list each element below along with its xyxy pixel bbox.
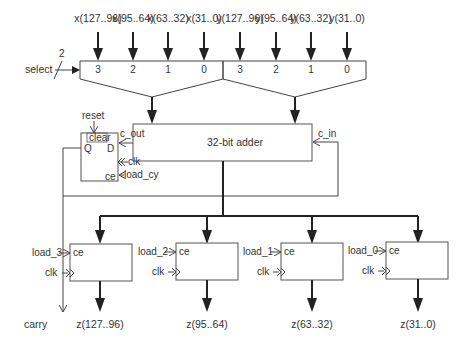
select-label: select [25,63,53,75]
register-load-label: load_2 [138,246,168,257]
arrow-down-icon [307,298,317,312]
d-label: D [107,143,114,154]
carry-output-wire [63,148,81,312]
arrow-down-icon [147,110,157,124]
mux-y-port-1: 1 [308,64,314,75]
input-label-y0: y(31..0) [329,12,365,24]
adder-block: 32-bit adder c_out c_in [120,124,336,161]
register-ce-label: ce [73,247,84,258]
mux-x-port-1: 1 [165,64,171,75]
mux-to-adder-arrows [147,97,300,124]
bus-to-register-arrows [95,216,423,244]
input-label-y1: y(63..32) [290,12,331,24]
mux-x-port-3: 3 [95,64,101,75]
arrow-down-icon [95,230,105,244]
mux-y-port-3: 3 [237,64,243,75]
arrow-down-icon [128,32,138,61]
register-output-label: z(31..0) [400,318,436,330]
arrow-down-icon [93,32,103,61]
mux-x-port-2: 2 [130,64,136,75]
register-clk-label: clk [257,266,270,277]
register-1: ce load_1 clk z(63..32) [243,243,343,330]
input-label-x1: x(63..32) [147,12,188,24]
register-load-label: load_1 [243,246,273,257]
arrow-down-icon [199,32,209,61]
carry-output-label: carry [24,318,48,330]
arrow-down-icon [271,32,281,61]
register-clk-label: clk [152,266,165,277]
arrow-down-icon [95,298,105,312]
arrow-down-icon [202,230,212,244]
adder-label: 32-bit adder [207,136,264,148]
arrow-down-icon [202,298,212,312]
register-clk-label: clk [362,265,375,276]
arrow-down-icon [290,110,300,124]
register-output-label: z(63..32) [291,318,332,330]
x-input-labels: x(127..96) x(95..64) x(63..32) x(31..0) [74,12,221,24]
input-arrows [93,32,352,61]
reset-label: reset [82,110,104,121]
mux-y: 3 2 1 0 [223,61,366,97]
mux-y-port-2: 2 [273,64,279,75]
q-label: Q [84,143,92,154]
register-0: ce load_0 clk z(31..0) [348,242,448,330]
register-output-label: z(95..64) [186,318,227,330]
c-in-label: c_in [318,128,336,139]
ff-clk-label: clk [128,156,141,167]
load-cy-label: load_cy [124,169,158,180]
adder-datapath-diagram: x(127..96) x(95..64) x(63..32) x(31..0) … [0,0,470,341]
mux-x: 3 2 1 0 [80,61,223,97]
register-ce-label: ce [284,246,295,257]
register-output-label: z(127..96) [76,318,123,330]
arrow-down-icon [413,298,423,312]
arrow-right-icon [72,66,80,74]
register-ce-label: ce [179,246,190,257]
clear-label: clear [89,132,111,143]
register-load-label: load_3 [32,247,62,258]
y-input-labels: y(127..96) y(95..64) y(63..32) y(31..0) [216,12,364,24]
register-2: ce load_2 clk z(95..64) [138,243,238,330]
c-out-label: c_out [120,128,145,139]
arrow-down-icon [235,32,245,61]
arrow-down-icon [306,32,316,61]
arrow-down-icon [342,32,352,61]
select-signal: select 2 [25,48,80,79]
register-clk-label: clk [45,267,58,278]
mux-x-port-0: 0 [201,64,207,75]
ff-ce-label: ce [105,171,116,182]
arrow-down-icon [307,230,317,244]
register-ce-label: ce [389,245,400,256]
register-load-label: load_0 [348,245,378,256]
arrow-down-icon [163,32,173,61]
mux-y-port-0: 0 [344,64,350,75]
select-width-label: 2 [59,48,65,59]
